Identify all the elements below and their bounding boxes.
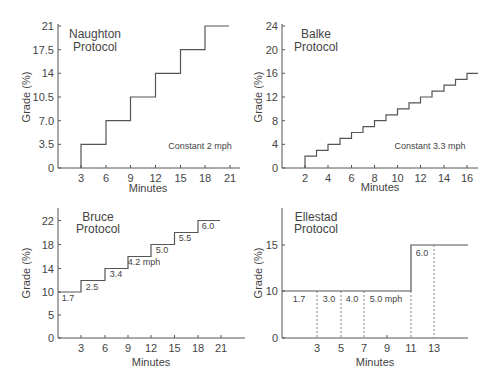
- svg-text:16: 16: [461, 172, 473, 184]
- svg-text:4: 4: [272, 138, 278, 150]
- naughton-chart: 0 3.5 7.0 10.5 14 17.5 21 3 6 9 12 15 18…: [20, 20, 240, 194]
- svg-text:5.5: 5.5: [179, 233, 192, 243]
- svg-text:9: 9: [384, 342, 390, 354]
- svg-text:20: 20: [266, 44, 278, 56]
- svg-text:6.0: 6.0: [202, 221, 215, 231]
- y-axis-label: Grade (%): [20, 248, 32, 299]
- svg-text:4.2 mph: 4.2 mph: [128, 257, 161, 267]
- svg-text:2.5: 2.5: [86, 282, 99, 292]
- svg-text:1.7: 1.7: [293, 294, 306, 304]
- chart-title: Balke: [301, 27, 331, 41]
- svg-text:10: 10: [266, 285, 278, 297]
- protocol-charts: 0 3.5 7.0 10.5 14 17.5 21 3 6 9 12 15 18…: [0, 0, 495, 379]
- chart-title: Protocol: [73, 40, 117, 54]
- svg-text:12: 12: [414, 172, 426, 184]
- svg-text:18: 18: [42, 239, 54, 251]
- svg-text:6: 6: [102, 342, 108, 354]
- svg-text:0: 0: [272, 332, 278, 344]
- svg-text:6: 6: [348, 172, 354, 184]
- svg-text:16: 16: [266, 67, 278, 79]
- svg-text:7: 7: [361, 342, 367, 354]
- svg-text:18: 18: [192, 342, 204, 354]
- x-axis-label: Minutes: [129, 182, 168, 194]
- x-axis-label: Minutes: [356, 356, 395, 368]
- ellestad-speed-labels: 1.7 3.0 4.0 5.0 mph 6.0: [293, 248, 429, 304]
- svg-text:9: 9: [125, 342, 131, 354]
- svg-text:0: 0: [48, 162, 54, 174]
- x-axis-label: Minutes: [361, 181, 400, 193]
- svg-text:22: 22: [42, 215, 54, 227]
- svg-text:5.0 mph: 5.0 mph: [370, 294, 403, 304]
- svg-text:21: 21: [215, 342, 227, 354]
- svg-text:5.0: 5.0: [156, 245, 169, 255]
- svg-text:4: 4: [325, 172, 331, 184]
- svg-text:7.0: 7.0: [39, 115, 54, 127]
- svg-text:0: 0: [48, 332, 54, 344]
- bruce-chart: 0 5 10 14 18 22 3 6 9 12 15 18 21 1.7 2.…: [20, 208, 245, 368]
- svg-text:18: 18: [199, 172, 211, 184]
- svg-text:12: 12: [145, 342, 157, 354]
- speed-annotation: Constant 3.3 mph: [394, 141, 465, 151]
- x-axis-label: Minutes: [132, 356, 171, 368]
- svg-text:14: 14: [42, 67, 54, 79]
- svg-text:4.0: 4.0: [346, 294, 359, 304]
- svg-text:21: 21: [224, 172, 236, 184]
- ellestad-chart: 0 10 15 3 5 7 9 11 13 1.7 3.0 4.0 5.0 mp…: [252, 208, 468, 368]
- chart-title: Protocol: [294, 222, 338, 236]
- svg-text:5: 5: [48, 309, 54, 321]
- chart-title: Protocol: [294, 40, 338, 54]
- svg-text:24: 24: [266, 20, 278, 32]
- svg-text:3: 3: [78, 172, 84, 184]
- y-axis-label: Grade (%): [20, 72, 32, 123]
- svg-text:1.7: 1.7: [62, 293, 75, 303]
- svg-text:14: 14: [42, 263, 54, 275]
- svg-text:17.5: 17.5: [33, 44, 54, 56]
- svg-text:11: 11: [405, 342, 416, 354]
- svg-text:10.5: 10.5: [33, 91, 54, 103]
- balke-chart: 0 4 8 12 16 20 24 2 4 6 8 10 12 14 16: [252, 20, 478, 193]
- ellestad-step-line: [282, 245, 468, 291]
- svg-text:3.4: 3.4: [110, 269, 123, 279]
- speed-annotation: Constant 2 mph: [168, 141, 232, 151]
- chart-title: Protocol: [76, 222, 120, 236]
- svg-text:15: 15: [168, 342, 180, 354]
- svg-text:2: 2: [302, 172, 308, 184]
- svg-text:0: 0: [272, 162, 278, 174]
- svg-text:6.0: 6.0: [416, 248, 429, 258]
- y-ticks: 0 3.5 7.0 10.5 14 17.5 21: [33, 20, 61, 174]
- y-axis-label: Grade (%): [252, 72, 264, 123]
- svg-text:13: 13: [428, 342, 440, 354]
- svg-text:6: 6: [103, 172, 109, 184]
- svg-text:3.0: 3.0: [323, 294, 336, 304]
- svg-text:21: 21: [42, 20, 54, 32]
- y-axis-label: Grade (%): [252, 248, 264, 299]
- svg-text:5: 5: [338, 342, 344, 354]
- balke-step-line: [305, 73, 478, 168]
- svg-text:8: 8: [272, 115, 278, 127]
- svg-text:15: 15: [174, 172, 186, 184]
- svg-text:15: 15: [266, 239, 278, 251]
- svg-text:3.5: 3.5: [39, 138, 54, 150]
- svg-text:3: 3: [78, 342, 84, 354]
- chart-title: Naughton: [69, 27, 121, 41]
- svg-text:3: 3: [314, 342, 320, 354]
- svg-text:12: 12: [266, 91, 278, 103]
- svg-text:14: 14: [438, 172, 450, 184]
- svg-text:10: 10: [42, 286, 54, 298]
